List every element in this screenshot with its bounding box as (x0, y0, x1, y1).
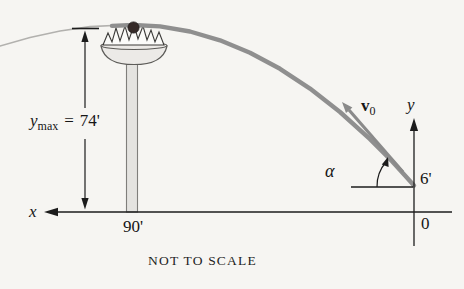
ymax-label: ymax=74' (30, 112, 100, 132)
ymax-subscript: max (38, 119, 59, 133)
projectile-diagram: ymax=74' 90' 6' 0 x y α v0 NOT TO SCALE (0, 0, 464, 289)
diagram-canvas (0, 0, 464, 289)
origin-label: 0 (421, 215, 430, 232)
ball (128, 22, 139, 33)
velocity-subscript: 0 (370, 104, 376, 118)
x-axis-label: x (29, 203, 37, 220)
launch-angle-label: α (325, 162, 334, 180)
y-axis-label: y (407, 96, 415, 113)
ymax-equals: = (64, 111, 74, 130)
ymax-variable: y (30, 111, 38, 130)
velocity-variable: v (361, 96, 370, 115)
ymax-value: 74' (80, 111, 100, 130)
not-to-scale-caption: NOT TO SCALE (148, 254, 257, 268)
velocity-label: v0 (361, 97, 376, 117)
ground-distance-label: 90' (123, 218, 143, 235)
launch-height-label: 6' (420, 170, 432, 187)
pedestal-pole (127, 60, 138, 212)
